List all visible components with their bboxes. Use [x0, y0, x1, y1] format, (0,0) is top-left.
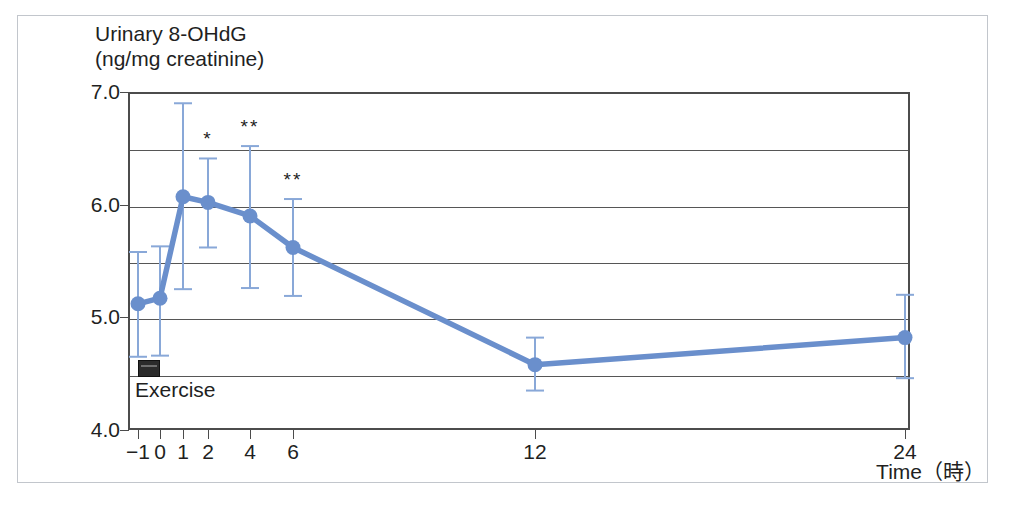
x-tick-mark: [208, 430, 209, 439]
x-axis-ticks: −1012461224: [128, 430, 910, 476]
x-axis-title: Time（時）: [876, 455, 985, 485]
y-tick-label: 4.0: [60, 418, 120, 442]
data-point-marker: [201, 195, 216, 210]
x-tick-label: 1: [177, 440, 189, 464]
x-tick-label: 0: [154, 440, 166, 464]
y-axis-title-line1: Urinary 8-OHdG: [95, 22, 247, 45]
x-tick-mark: [250, 430, 251, 439]
y-axis-title: Urinary 8-OHdG(ng/mg creatinine): [95, 22, 264, 72]
x-tick-label: 6: [287, 440, 299, 464]
x-tick-label: 4: [244, 440, 256, 464]
y-tick-label: 5.0: [60, 305, 120, 329]
significance-marker: **: [284, 169, 303, 191]
significance-marker: *: [203, 128, 212, 150]
data-layer: [128, 92, 910, 430]
significance-marker: **: [241, 116, 260, 138]
x-tick-label: −1: [126, 440, 150, 464]
y-axis-ticks: 4.05.06.07.0: [58, 92, 120, 430]
x-tick-mark: [183, 430, 184, 439]
data-point-marker: [153, 291, 168, 306]
y-axis-title-line2: (ng/mg creatinine): [95, 47, 264, 70]
exercise-marker-label: Exercise: [135, 378, 216, 402]
x-tick-mark: [535, 430, 536, 439]
figure-container: Urinary 8-OHdG(ng/mg creatinine) 4.05.06…: [0, 0, 1009, 508]
x-tick-mark: [905, 430, 906, 439]
data-point-marker: [286, 240, 301, 255]
x-tick-label: 2: [202, 440, 214, 464]
data-point-marker: [528, 357, 543, 372]
x-tick-mark: [160, 430, 161, 439]
data-point-marker: [131, 296, 146, 311]
x-tick-label: 12: [523, 440, 546, 464]
x-tick-mark: [293, 430, 294, 439]
data-point-marker: [176, 189, 191, 204]
exercise-marker-bar: [138, 360, 160, 377]
y-tick-label: 7.0: [60, 80, 120, 104]
x-tick-mark: [138, 430, 139, 439]
data-point-marker: [898, 330, 913, 345]
y-tick-label: 6.0: [60, 193, 120, 217]
data-point-marker: [243, 208, 258, 223]
